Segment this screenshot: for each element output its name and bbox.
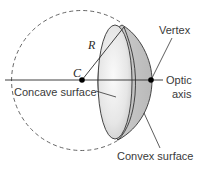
convex-surface-label: Convex surface: [117, 150, 193, 162]
convex-leader-line: [144, 113, 160, 148]
center-label: C: [73, 66, 82, 80]
concave-surface-label: Concave surface: [14, 86, 97, 98]
concave-surface-face: [98, 25, 132, 139]
optic-axis-label-line1: Optic: [166, 74, 192, 86]
vertex-point: [148, 77, 154, 83]
vertex-leader-line: [152, 38, 172, 78]
mirror-diagram: R C Concave surface Vertex Optic axis Co…: [0, 0, 200, 169]
radius-label: R: [87, 38, 96, 52]
optic-axis-label-line2: axis: [172, 88, 192, 100]
vertex-label: Vertex: [159, 24, 191, 36]
